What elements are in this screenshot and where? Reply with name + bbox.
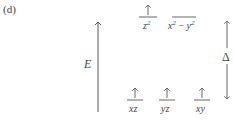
level-label-xy: xy xyxy=(195,103,205,114)
level-label-z2: z2 xyxy=(142,19,151,31)
energy-axis-label: E xyxy=(83,57,92,71)
level-x2-y2: x2 − y2 xyxy=(167,17,196,31)
level-label-yz: yz xyxy=(160,103,169,114)
energy-level-diagram: E z2 x2 − y2 xz yz xy Δ xyxy=(0,0,234,126)
level-z2: z2 xyxy=(139,5,157,31)
level-label-x2-y2: x2 − y2 xyxy=(167,19,195,31)
level-label-xz: xz xyxy=(128,103,137,114)
level-xy: xy xyxy=(194,88,210,114)
delta-label: Δ xyxy=(222,50,230,64)
level-yz: yz xyxy=(159,88,175,114)
level-xz: xz xyxy=(127,88,143,114)
